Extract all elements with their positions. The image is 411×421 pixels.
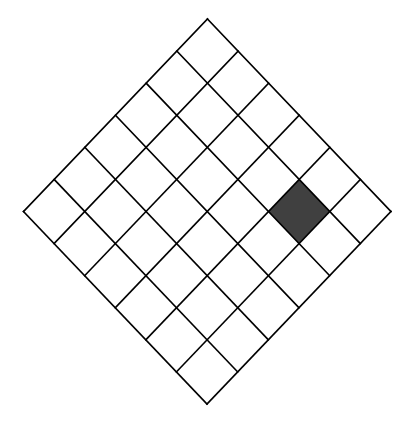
shaded-cell: [269, 179, 330, 243]
grid-lines: [24, 19, 392, 404]
shaded-cells: [269, 179, 330, 243]
diamond-grid-diagram: [0, 0, 411, 421]
